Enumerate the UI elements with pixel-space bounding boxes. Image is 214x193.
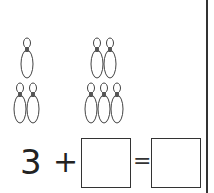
left-pin-group — [14, 38, 39, 123]
bowling-pin-icon — [98, 83, 110, 123]
right-pin-group — [85, 38, 123, 123]
equals-sign: = — [133, 146, 151, 176]
bowling-pin-icon — [21, 38, 33, 78]
bowling-pin-icon — [85, 83, 97, 123]
first-addend: 3 — [20, 144, 42, 180]
result-answer-box[interactable] — [151, 138, 201, 188]
plus-sign: + — [53, 144, 78, 180]
bowling-pin-icon — [27, 83, 39, 123]
bowling-pin-icon — [14, 83, 26, 123]
bowling-pin-icon — [104, 38, 116, 78]
second-addend-answer-box[interactable] — [81, 138, 131, 188]
bowling-pin-icon — [111, 83, 123, 123]
bowling-pins-illustration — [0, 0, 214, 130]
bowling-pin-icon — [91, 38, 103, 78]
